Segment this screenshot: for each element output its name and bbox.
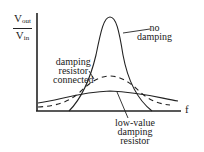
curve-low-value-resistor <box>38 91 178 103</box>
label-low-value-line3: resistor <box>115 136 155 145</box>
vout-subscript: out <box>22 17 31 25</box>
vin-symbol: V <box>16 29 24 41</box>
label-no-damping: no damping <box>137 23 172 41</box>
leader-low-value <box>117 92 128 118</box>
label-low-value-resistor: low-value damping resistor <box>115 118 155 145</box>
label-damping-resistor-line3: connected <box>53 75 94 84</box>
vin-subscript: in <box>24 34 29 42</box>
label-no-damping-line2: damping <box>137 32 172 41</box>
y-axis-label: Vout Vin <box>13 13 32 44</box>
x-axis-label: f <box>185 105 189 114</box>
label-damping-resistor: damping resistor connected <box>53 57 94 84</box>
vout-symbol: V <box>14 12 22 24</box>
